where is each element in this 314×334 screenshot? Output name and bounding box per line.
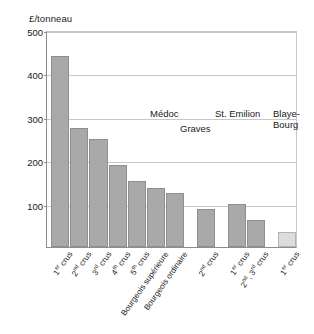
bar [147, 188, 165, 247]
bar [128, 181, 146, 247]
y-tick-label-400: 400 [27, 70, 43, 81]
region-label-blaye-bourg: Blaye- Bourg [273, 108, 300, 130]
region-label-graves: Graves [180, 123, 211, 134]
bar-series [47, 32, 296, 247]
y-axis-title: £/tonneau [29, 13, 72, 24]
y-tick-label-500: 500 [27, 27, 43, 38]
y-tick-label-100: 100 [27, 200, 43, 211]
x-axis-label: 2nd crus [197, 250, 220, 278]
y-tick-label-300: 300 [27, 113, 43, 124]
bar [197, 209, 215, 247]
bar [51, 56, 69, 247]
bar [247, 220, 265, 247]
x-axis-label: 3rd crus [90, 250, 113, 277]
bar [89, 139, 107, 248]
x-axis-label: 1er crus [278, 250, 301, 277]
region-label-medoc: Médoc [150, 108, 179, 119]
blaye-line-2: Bourg [273, 119, 298, 130]
bar [70, 128, 88, 247]
bar [109, 165, 127, 247]
plot-area: 100200300400500 Médoc Graves St. Emilion… [46, 31, 297, 248]
bordeaux-price-bar-chart: £/tonneau 100200300400500 Médoc Graves S… [0, 0, 314, 334]
bar [166, 193, 184, 247]
bar [278, 232, 296, 247]
x-axis-labels: 1er crus2nd crus3rd crus4th crus5th crus… [46, 250, 297, 334]
region-label-st-emilion: St. Emilion [215, 108, 260, 119]
y-tick-label-200: 200 [27, 157, 43, 168]
bar [228, 204, 246, 247]
blaye-line-1: Blaye- [273, 108, 300, 119]
